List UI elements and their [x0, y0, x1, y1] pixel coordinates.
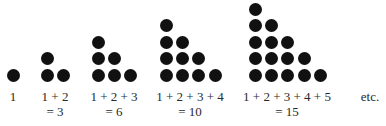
- dot: [108, 52, 121, 65]
- dot: [249, 52, 262, 65]
- dot: [298, 69, 311, 82]
- dot: [92, 69, 105, 82]
- group-4-label-sum: 1 + 2 + 3 + 4: [156, 89, 224, 104]
- dot: [41, 69, 54, 82]
- dot: [92, 36, 105, 49]
- dot: [249, 69, 262, 82]
- dot: [265, 52, 278, 65]
- group-5-label-result: = 15: [275, 104, 299, 119]
- dot: [281, 69, 294, 82]
- dot: [108, 69, 121, 82]
- dot: [160, 36, 173, 49]
- dot: [249, 36, 262, 49]
- dot: [265, 36, 278, 49]
- dot: [41, 52, 54, 65]
- dot: [281, 36, 294, 49]
- dot: [265, 69, 278, 82]
- dot: [314, 69, 327, 82]
- group-4-label-result: = 10: [178, 104, 202, 119]
- dot: [7, 69, 20, 82]
- dot: [249, 3, 262, 16]
- group-3-label-result: = 6: [105, 104, 122, 119]
- dot: [176, 52, 189, 65]
- dot: [176, 69, 189, 82]
- dot: [209, 69, 222, 82]
- group-2-label-sum: 1 + 2: [42, 89, 69, 104]
- dot: [160, 69, 173, 82]
- dot: [160, 19, 173, 32]
- group-3-label-sum: 1 + 2 + 3: [90, 89, 137, 104]
- dot: [92, 52, 105, 65]
- dot: [124, 69, 137, 82]
- dot: [265, 19, 278, 32]
- dot: [192, 69, 205, 82]
- dot: [176, 36, 189, 49]
- dot: [298, 52, 311, 65]
- dot: [281, 52, 294, 65]
- dot: [160, 52, 173, 65]
- dot: [57, 69, 70, 82]
- group-1-label: 1: [10, 89, 17, 104]
- group-2-label-result: = 3: [46, 104, 63, 119]
- etc-text: etc.: [361, 89, 379, 104]
- dot: [249, 19, 262, 32]
- dot: [192, 52, 205, 65]
- group-5-label-sum: 1 + 2 + 3 + 4 + 5: [243, 89, 331, 104]
